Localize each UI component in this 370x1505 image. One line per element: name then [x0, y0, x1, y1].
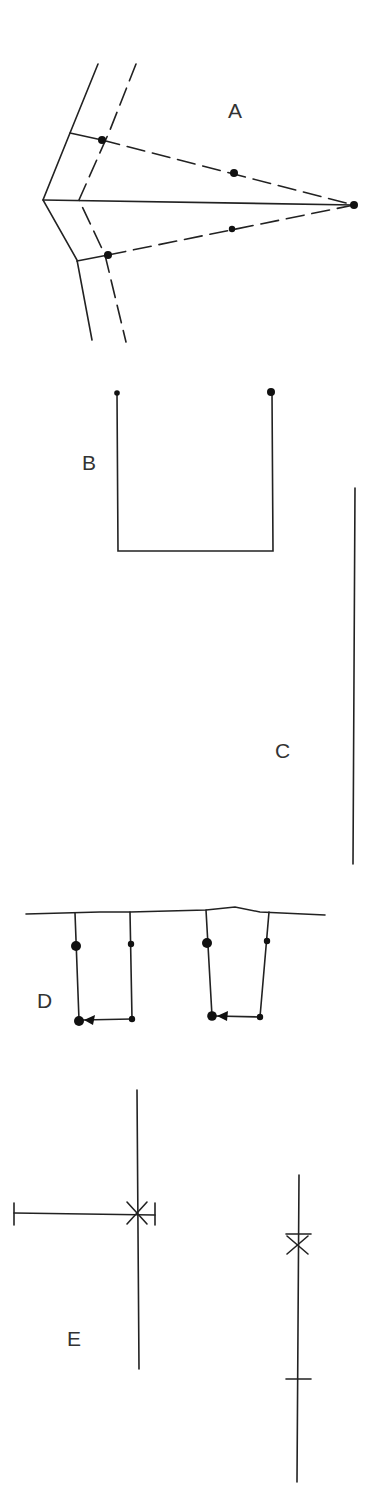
- panel-a-point: [230, 169, 238, 177]
- panel-d-large-point: [202, 938, 212, 948]
- panel-d-diagram: D: [26, 907, 325, 1026]
- panel-a-lower-link: [77, 255, 108, 261]
- panel-d-large-point: [207, 1011, 217, 1021]
- panel-e-horizontal-bar: [14, 1213, 155, 1215]
- panel-e-label: E: [67, 1327, 81, 1350]
- panel-e-right-vertical-line: [297, 1175, 299, 1482]
- panel-a-point: [98, 136, 106, 144]
- panel-b-left-point: [114, 390, 120, 396]
- arrow-left-icon: [217, 1011, 228, 1021]
- panel-e-left-vertical-line: [137, 1090, 139, 1369]
- panel-a-upper-link: [70, 133, 102, 140]
- panel-a-diagram: A: [43, 64, 358, 342]
- panel-d-stem: [130, 912, 132, 1019]
- panel-a-point: [104, 251, 112, 259]
- panel-c-label: C: [275, 739, 290, 762]
- panel-d-stem: [75, 913, 79, 1020]
- figure-canvas: A B C D: [0, 0, 370, 1505]
- panel-d-large-point: [74, 1016, 84, 1026]
- panel-d-large-point: [71, 941, 81, 951]
- panel-a-point: [229, 226, 235, 232]
- panel-d-surface-line: [26, 907, 325, 915]
- panel-d-stem: [260, 912, 269, 1017]
- panel-c-diagram: C: [275, 488, 355, 864]
- panel-d-stem: [206, 910, 212, 1016]
- panel-a-axis-line: [43, 200, 354, 205]
- panel-d-label: D: [37, 989, 52, 1012]
- panel-a-upper-ray: [102, 140, 354, 205]
- panel-a-inner-boundary: [79, 64, 136, 342]
- panel-a-apex-point: [350, 201, 358, 209]
- panel-e-diagram: E: [14, 1090, 311, 1482]
- panel-b-label: B: [82, 451, 96, 474]
- panel-a-label: A: [228, 99, 242, 122]
- panel-d-small-point: [128, 941, 134, 947]
- panel-b-u-shape: [117, 392, 273, 551]
- panel-d-small-point: [264, 938, 270, 944]
- arrow-left-icon: [84, 1015, 95, 1025]
- panel-a-outer-boundary: [43, 64, 98, 340]
- panel-d-small-point: [129, 1016, 135, 1022]
- panel-b-right-point: [267, 388, 275, 396]
- panel-d-small-point: [257, 1014, 263, 1020]
- panel-b-diagram: B: [82, 388, 275, 551]
- panel-c-vertical-line: [353, 488, 355, 864]
